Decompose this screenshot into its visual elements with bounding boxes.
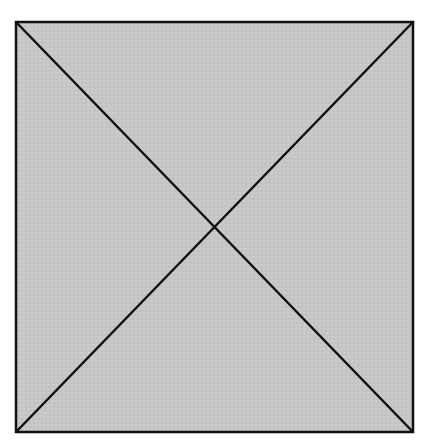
- diagram-canvas: [0, 0, 426, 448]
